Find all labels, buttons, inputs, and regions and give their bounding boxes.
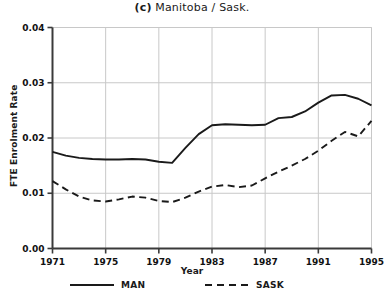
x-tick-label: 1991 bbox=[296, 257, 340, 267]
plot-area bbox=[0, 0, 384, 294]
legend-entry-sask: SASK bbox=[205, 279, 284, 291]
chart-figure: (c) Manitoba / Sask. FTE Enrolment Rate … bbox=[0, 0, 384, 294]
x-tick-label: 1983 bbox=[190, 257, 234, 267]
chart-legend: MANSASK bbox=[0, 279, 384, 293]
x-tick-label: 1987 bbox=[243, 257, 287, 267]
y-tick-label: 0.04 bbox=[4, 23, 45, 33]
x-axis-label: Year bbox=[0, 266, 384, 276]
legend-swatch-sask bbox=[205, 283, 249, 287]
y-tick-label: 0.02 bbox=[4, 133, 45, 143]
legend-entry-man: MAN bbox=[70, 279, 145, 291]
y-tick-label: 0.03 bbox=[4, 78, 45, 88]
x-tick-label: 1979 bbox=[137, 257, 181, 267]
legend-label: MAN bbox=[121, 280, 145, 290]
legend-label: SASK bbox=[256, 280, 284, 290]
x-tick-label: 1971 bbox=[31, 257, 75, 267]
x-tick-label: 1975 bbox=[84, 257, 128, 267]
legend-swatch-man bbox=[70, 283, 114, 287]
x-tick-label: 1995 bbox=[350, 257, 384, 267]
y-tick-label: 0.00 bbox=[4, 244, 45, 254]
y-tick-label: 0.01 bbox=[4, 188, 45, 198]
